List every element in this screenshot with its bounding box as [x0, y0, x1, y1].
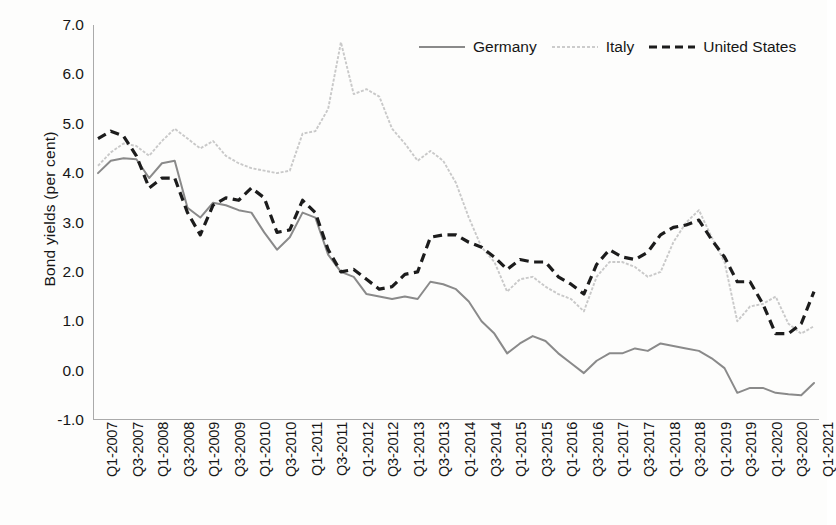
- x-tick-label: Q3-2014: [488, 422, 504, 477]
- series-canvas: [93, 25, 819, 420]
- axis-lines: [93, 25, 819, 420]
- x-tick-label: Q1-2014: [462, 422, 478, 477]
- x-tick-label: Q3-2018: [692, 422, 708, 477]
- x-tick-label: Q3-2020: [794, 422, 810, 477]
- x-tick-label: Q3-2016: [590, 422, 606, 477]
- legend-label-united-states: United States: [703, 38, 796, 56]
- x-tick-label: Q1-2013: [411, 422, 427, 477]
- y-tick-label: 3.0: [38, 214, 84, 232]
- x-tick-label: Q1-2012: [360, 422, 376, 477]
- chart-legend: Germany Italy United States: [418, 38, 796, 56]
- x-tick-label: Q1-2018: [667, 422, 683, 477]
- legend-swatch-dotted-icon: [551, 41, 599, 53]
- y-tick-label: 7.0: [38, 16, 84, 34]
- x-tick-label: Q1-2007: [104, 422, 120, 477]
- y-tick-label: 4.0: [38, 164, 84, 182]
- series-line-united-states: [98, 131, 814, 333]
- x-tick-label: Q1-2015: [513, 422, 529, 477]
- x-tick-label: Q3-2009: [232, 422, 248, 477]
- legend-item-germany[interactable]: Germany: [418, 38, 537, 56]
- y-tick-label: 1.0: [38, 312, 84, 330]
- series-line-germany: [98, 158, 814, 395]
- y-tick-label: 5.0: [38, 115, 84, 133]
- x-tick-label: Q1-2008: [155, 422, 171, 477]
- legend-item-italy[interactable]: Italy: [551, 38, 634, 56]
- x-tick-label: Q3-2011: [334, 422, 350, 476]
- x-tick-label: Q3-2015: [539, 422, 555, 477]
- x-tick-label: Q3-2012: [385, 422, 401, 477]
- plot-area: [93, 25, 819, 420]
- x-tick-label: Q1-2009: [206, 422, 222, 477]
- x-tick-label: Q1-2019: [718, 422, 734, 477]
- y-tick-label: 2.0: [38, 263, 84, 281]
- x-tick-label: Q3-2010: [283, 422, 299, 477]
- x-tick-label: Q1-2017: [615, 422, 631, 477]
- x-tick-label: Q1-2020: [769, 422, 785, 477]
- x-tick-label: Q1-2010: [257, 422, 273, 477]
- x-tick-label: Q1-2021: [820, 422, 836, 477]
- x-tick-label: Q1-2011: [309, 422, 325, 476]
- x-tick-label: Q3-2017: [641, 422, 657, 477]
- x-tick-label: Q3-2013: [436, 422, 452, 477]
- x-tick-label: Q3-2008: [181, 422, 197, 477]
- x-tick-label: Q3-2019: [743, 422, 759, 477]
- x-tick-label: Q3-2007: [130, 422, 146, 477]
- legend-label-italy: Italy: [606, 38, 634, 56]
- legend-swatch-dashed-icon: [648, 41, 696, 53]
- y-tick-label: -1.0: [38, 411, 84, 429]
- y-tick-label: 6.0: [38, 65, 84, 83]
- legend-label-germany: Germany: [473, 38, 537, 56]
- data-series-group: [98, 42, 814, 395]
- x-tick-label: Q1-2016: [564, 422, 580, 477]
- legend-swatch-solid-icon: [418, 41, 466, 53]
- y-axis-tick-labels: 7.06.05.04.03.02.01.00.0-1.0: [26, 0, 84, 525]
- legend-item-united-states[interactable]: United States: [648, 38, 796, 56]
- y-tick-label: 0.0: [38, 362, 84, 380]
- x-axis-tick-labels: Q1-2007Q3-2007Q1-2008Q3-2008Q1-2009Q3-20…: [93, 422, 819, 522]
